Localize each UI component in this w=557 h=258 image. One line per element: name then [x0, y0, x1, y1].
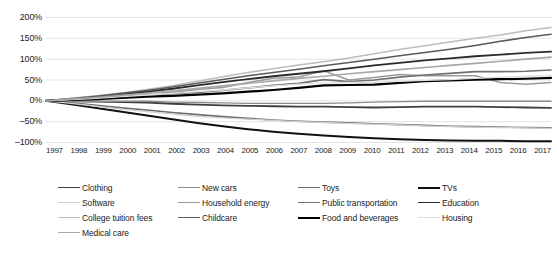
legend-swatch-icon — [58, 217, 80, 218]
legend-swatch-icon — [178, 202, 200, 203]
x-axis-tick-label: 2006 — [266, 146, 283, 155]
x-axis-tick-label: 1997 — [46, 146, 63, 155]
legend-label: College tuition fees — [82, 213, 152, 223]
legend-label: Medical care — [82, 228, 129, 238]
legend-swatch-icon — [298, 187, 320, 188]
legend-item-toys[interactable]: Toys — [298, 180, 418, 195]
legend-label: Household energy — [202, 198, 269, 208]
x-axis-tick-label: 2011 — [388, 146, 404, 155]
legend-item-software[interactable]: Software — [58, 195, 178, 210]
x-axis-tick-label: 2001 — [144, 146, 161, 155]
legend-swatch-icon — [418, 217, 440, 218]
y-axis-tick-label: 200% — [0, 13, 42, 22]
x-axis-tick-label: 2003 — [193, 146, 210, 155]
legend-item-housing[interactable]: Housing — [418, 210, 538, 225]
legend-label: Public transportation — [322, 198, 397, 208]
y-axis-tick-label: 0% — [0, 96, 42, 105]
x-axis-tick-label: 2014 — [461, 146, 478, 155]
legend-label: Education — [442, 198, 479, 208]
legend-item-education[interactable]: Education — [418, 195, 538, 210]
legend-item-tvs[interactable]: TVs — [418, 180, 538, 195]
legend-label: Clothing — [82, 183, 112, 193]
y-axis-tick-label: –100% — [0, 138, 42, 147]
x-axis-tick-label: 1999 — [95, 146, 112, 155]
series-line-toys — [46, 101, 551, 128]
legend-label: TVs — [442, 183, 457, 193]
x-axis-tick-label: 1998 — [70, 146, 87, 155]
legend-swatch-icon — [58, 232, 80, 233]
x-axis-tick-label: 2009 — [339, 146, 356, 155]
legend-item-public-transportation[interactable]: Public transportation — [298, 195, 418, 210]
y-axis-tick-label: 100% — [0, 55, 42, 64]
legend-item-household-energy[interactable]: Household energy — [178, 195, 298, 210]
y-axis-tick-label: 50% — [0, 76, 42, 85]
x-axis-tick-label: 2012 — [412, 146, 429, 155]
x-axis-tick-label: 2016 — [510, 146, 527, 155]
x-axis-tick-label: 2008 — [315, 146, 332, 155]
series-line-childcare — [46, 34, 551, 101]
legend-item-clothing[interactable]: Clothing — [58, 180, 178, 195]
legend-item-medical-care[interactable]: Medical care — [58, 225, 178, 240]
legend-label: New cars — [202, 183, 237, 193]
legend-item-college-tuition-fees[interactable]: College tuition fees — [58, 210, 178, 225]
legend-swatch-icon — [58, 187, 80, 188]
x-axis-tick-label: 2013 — [436, 146, 453, 155]
price-changes-line-chart: 200%150%100%50%0%–50%–100% 1997199819992… — [0, 0, 557, 258]
legend-label: Software — [82, 198, 115, 208]
legend-item-new-cars[interactable]: New cars — [178, 180, 298, 195]
x-axis-tick-label: 2004 — [217, 146, 234, 155]
x-axis-tick-label: 2015 — [485, 146, 502, 155]
legend-item-childcare[interactable]: Childcare — [178, 210, 298, 225]
legend-swatch-icon — [298, 202, 320, 203]
legend-label: Childcare — [202, 213, 237, 223]
x-axis-tick-label: 2010 — [364, 146, 381, 155]
y-axis-tick-label: 150% — [0, 34, 42, 43]
legend-swatch-icon — [418, 202, 440, 203]
x-axis-tick-label: 2007 — [290, 146, 307, 155]
legend-label: Toys — [322, 183, 339, 193]
series-lines — [46, 28, 551, 142]
legend-label: Food and beverages — [322, 213, 398, 223]
legend-swatch-icon — [418, 187, 440, 189]
legend-swatch-icon — [298, 217, 320, 219]
y-axis-tick-label: –50% — [0, 117, 42, 126]
series-line-food-and-beverages — [46, 78, 551, 101]
chart-legend: ClothingNew carsToysTVsSoftwareHousehold… — [58, 180, 538, 252]
legend-swatch-icon — [58, 202, 80, 203]
x-axis-tick-label: 2002 — [168, 146, 185, 155]
legend-label: Housing — [442, 213, 473, 223]
x-axis-tick-label: 2000 — [119, 146, 136, 155]
x-axis-tick-label: 2017 — [534, 146, 551, 155]
legend-item-food-and-beverages[interactable]: Food and beverages — [298, 210, 418, 225]
x-axis-tick-label: 2005 — [242, 146, 259, 155]
legend-swatch-icon — [178, 217, 200, 218]
legend-swatch-icon — [178, 187, 200, 188]
series-line-software — [46, 101, 551, 129]
x-axis-labels: 1997199819992000200120022003200420052006… — [46, 146, 551, 160]
